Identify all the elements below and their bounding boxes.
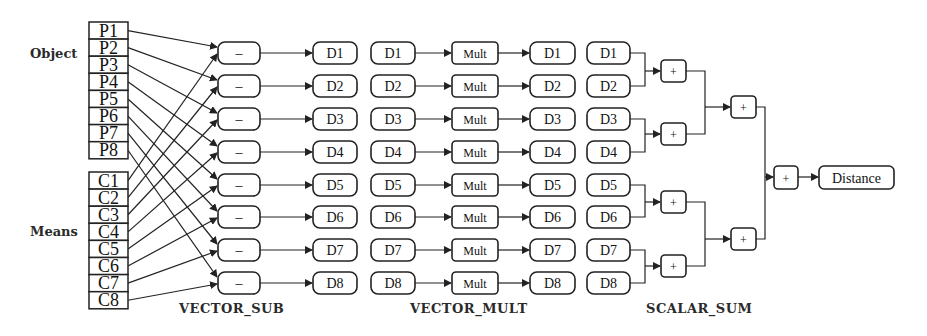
subtract-box-4-text: – bbox=[235, 145, 244, 160]
wire-c2-to-sub bbox=[128, 87, 217, 198]
subtract-box-1-text: – bbox=[235, 46, 244, 61]
d-register-mult-out-d3-text: D3 bbox=[544, 112, 561, 127]
object-cell-label: P8 bbox=[99, 140, 118, 160]
d-register-sum-in-d2-text: D2 bbox=[600, 79, 617, 94]
d-register-mult-in-d2-text: D2 bbox=[384, 79, 401, 94]
d-register-mult-in-d5-text: D5 bbox=[384, 178, 401, 193]
wire-p8-to-sub bbox=[128, 150, 217, 277]
wire-p6-to-sub bbox=[128, 116, 217, 211]
d-register-mult-out-d8-text: D8 bbox=[544, 276, 561, 291]
d-register-mult-out-d2-text: D2 bbox=[544, 79, 561, 94]
mult-box-5-text: Mult bbox=[463, 179, 487, 193]
d-register-mult-out-d7-text: D7 bbox=[544, 243, 561, 258]
stage-label-vector-mult: VECTOR_MULT bbox=[409, 301, 528, 317]
d-register-sum-in-d7-text: D7 bbox=[600, 243, 617, 258]
wire-p7-to-sub bbox=[128, 133, 217, 244]
subtract-box-2-text: – bbox=[235, 79, 244, 94]
wire-c8-to-sub bbox=[128, 284, 217, 300]
adder-l1-3-text: + bbox=[670, 196, 677, 210]
d-register-sub-d1-text: D1 bbox=[326, 46, 343, 61]
d-register-sum-in-d4-text: D4 bbox=[600, 145, 617, 160]
mult-box-3-text: Mult bbox=[463, 113, 487, 127]
mult-box-4-text: Mult bbox=[463, 146, 487, 160]
bracket-sum-l3 bbox=[756, 107, 765, 239]
d-register-sub-d5-text: D5 bbox=[326, 178, 343, 193]
subtract-box-7-text: – bbox=[235, 243, 244, 258]
d-register-mult-in-d1-text: D1 bbox=[384, 46, 401, 61]
mult-box-6-text: Mult bbox=[463, 211, 487, 225]
d-register-sum-in-d6-text: D6 bbox=[600, 210, 617, 225]
adder-l1-4-text: + bbox=[670, 260, 677, 274]
wire-p2-to-sub bbox=[128, 48, 217, 80]
bracket-sum-l2-1 bbox=[686, 71, 705, 134]
mult-box-7-text: Mult bbox=[463, 244, 487, 258]
d-register-sum-in-d8-text: D8 bbox=[600, 276, 617, 291]
adder-l2-2-text: + bbox=[740, 233, 747, 247]
wire-c4-to-sub bbox=[128, 153, 217, 232]
subtract-box-3-text: – bbox=[235, 112, 244, 127]
wire-c1-to-sub bbox=[128, 54, 217, 181]
subtract-box-5-text: – bbox=[235, 178, 244, 193]
d-register-mult-in-d6-text: D6 bbox=[384, 210, 401, 225]
d-register-sum-in-d1-text: D1 bbox=[600, 46, 617, 61]
adder-l1-1-text: + bbox=[670, 65, 677, 79]
bracket-sum-l1-2 bbox=[630, 119, 645, 152]
d-register-sum-in-d3-text: D3 bbox=[600, 112, 617, 127]
d-register-mult-out-d5-text: D5 bbox=[544, 178, 561, 193]
d-register-mult-in-d3-text: D3 bbox=[384, 112, 401, 127]
d-register-sub-d3-text: D3 bbox=[326, 112, 343, 127]
diagram-svg: Object Means VECTOR_SUB VECTOR_MULT SCAL… bbox=[0, 0, 927, 336]
d-register-sub-d8-text: D8 bbox=[326, 276, 343, 291]
object-label: Object bbox=[30, 46, 77, 61]
d-register-sub-d4-text: D4 bbox=[326, 145, 343, 160]
bracket-sum-l1-1 bbox=[630, 53, 645, 86]
bracket-sum-l1-4 bbox=[630, 250, 645, 283]
d-register-sum-in-d5-text: D5 bbox=[600, 178, 617, 193]
mult-box-8-text: Mult bbox=[463, 277, 487, 291]
distance-output-box-text: Distance bbox=[832, 171, 881, 186]
d-register-mult-out-d1-text: D1 bbox=[544, 46, 561, 61]
d-register-mult-out-d6-text: D6 bbox=[544, 210, 561, 225]
d-register-sub-d6-text: D6 bbox=[326, 210, 343, 225]
adder-l1-2-text: + bbox=[670, 128, 677, 142]
mult-box-2-text: Mult bbox=[463, 80, 487, 94]
mult-box-1-text: Mult bbox=[463, 47, 487, 61]
stage-label-scalar-sum: SCALAR_SUM bbox=[646, 301, 752, 317]
subtract-box-6-text: – bbox=[235, 210, 244, 225]
wire-c7-to-sub bbox=[128, 251, 217, 283]
diagram-content: P1P2P3P4P5P6P7P8C1C2C3C4C5C6C7C8–D1D1Mul… bbox=[89, 21, 894, 311]
bracket-sum-l2-2 bbox=[686, 202, 705, 266]
wire-p1-to-sub bbox=[128, 31, 217, 47]
d-register-sub-d2-text: D2 bbox=[326, 79, 343, 94]
d-register-mult-in-d8-text: D8 bbox=[384, 276, 401, 291]
bracket-sum-l1-3 bbox=[630, 185, 645, 217]
means-label: Means bbox=[30, 224, 78, 239]
adder-final-text: + bbox=[783, 172, 790, 186]
distance-computation-diagram: Object Means VECTOR_SUB VECTOR_MULT SCAL… bbox=[0, 0, 927, 336]
wire-p4-to-sub bbox=[128, 82, 217, 146]
d-register-sub-d7-text: D7 bbox=[326, 243, 343, 258]
d-register-mult-in-d7-text: D7 bbox=[384, 243, 401, 258]
d-register-mult-out-d4-text: D4 bbox=[544, 145, 561, 160]
stage-label-vector-sub: VECTOR_SUB bbox=[178, 301, 284, 317]
d-register-mult-in-d4-text: D4 bbox=[384, 145, 401, 160]
adder-l2-1-text: + bbox=[740, 101, 747, 115]
wire-c5-to-sub bbox=[128, 186, 217, 249]
subtract-box-8-text: – bbox=[235, 276, 244, 291]
means-cell-label: C8 bbox=[98, 290, 119, 310]
